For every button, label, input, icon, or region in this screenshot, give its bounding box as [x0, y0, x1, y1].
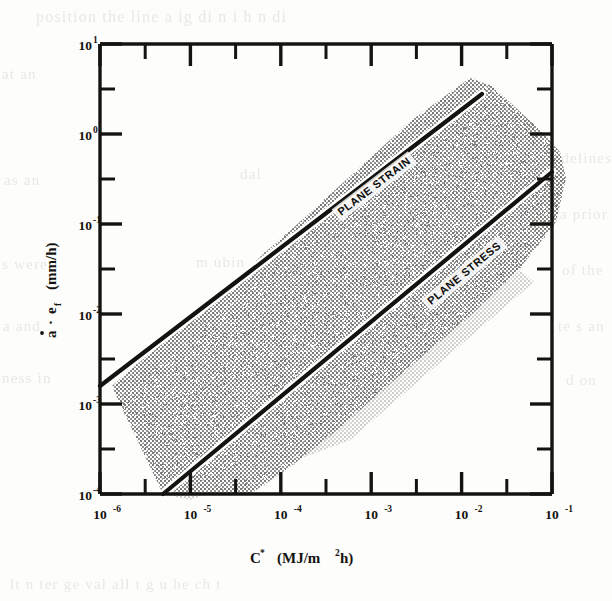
x-tick-label: 10 -3 [364, 504, 392, 522]
svg-text:10: 10 [79, 128, 93, 143]
svg-text:-2: -2 [93, 305, 101, 315]
svg-text:·: · [43, 320, 59, 325]
y-axis-title: a · e f (mm/h) [40, 243, 63, 339]
svg-text:e: e [43, 307, 59, 314]
svg-text:10: 10 [364, 507, 378, 522]
figure-page: position the line a ig di n i h n di at … [0, 0, 612, 601]
chart-svg: PLANE STRAIN PLANE STRESS [0, 0, 612, 601]
svg-text:10: 10 [93, 507, 107, 522]
y-tick-label: 10 0 [79, 125, 99, 143]
svg-text:10: 10 [79, 398, 93, 413]
svg-text:10: 10 [545, 507, 559, 522]
x-axis-title: C * (MJ/m 2 h) [250, 548, 353, 567]
svg-text:10: 10 [79, 218, 93, 233]
creep-crack-growth-chart: PLANE STRAIN PLANE STRESS [0, 0, 612, 601]
svg-text:-3: -3 [93, 395, 101, 405]
scatter-band-group [112, 78, 566, 500]
svg-text:1: 1 [93, 35, 98, 45]
svg-text:*: * [260, 548, 265, 558]
svg-text:-5: -5 [203, 504, 211, 514]
y-tick-label: 10 -1 [79, 215, 102, 233]
svg-text:10: 10 [79, 488, 93, 503]
svg-text:-1: -1 [565, 504, 573, 514]
svg-text:-1: -1 [93, 215, 101, 225]
svg-text:h): h) [340, 550, 353, 567]
svg-text:(mm/h): (mm/h) [43, 243, 60, 291]
svg-text:(MJ/m: (MJ/m [277, 550, 321, 567]
x-tick-labels: 10 -6 10 -5 10 -4 10 -3 10 -2 10 -1 [93, 504, 573, 522]
svg-text:10: 10 [184, 507, 198, 522]
svg-text:10: 10 [79, 308, 93, 323]
svg-text:a: a [43, 330, 59, 338]
y-tick-label: 10 -4 [79, 485, 102, 503]
svg-text:-6: -6 [113, 504, 121, 514]
x-tick-label: 10 -2 [455, 504, 483, 522]
svg-text:-4: -4 [294, 504, 302, 514]
x-tick-label: 10 -4 [274, 504, 302, 522]
svg-text:-2: -2 [475, 504, 483, 514]
svg-text:10: 10 [455, 507, 469, 522]
y-tick-label: 10 -2 [79, 305, 102, 323]
y-tick-label: 10 -3 [79, 395, 102, 413]
x-tick-label: 10 -1 [545, 504, 573, 522]
svg-text:f: f [53, 302, 63, 306]
y-tick-label: 10 1 [79, 35, 99, 53]
svg-text:10: 10 [274, 507, 288, 522]
svg-text:-3: -3 [384, 504, 392, 514]
svg-text:-4: -4 [93, 485, 101, 495]
x-tick-label: 10 -5 [184, 504, 212, 522]
svg-text:0: 0 [93, 125, 98, 135]
svg-text:10: 10 [79, 38, 93, 53]
a-dot-accent [40, 331, 44, 335]
y-tick-labels: 10 1 10 0 10 -1 10 -2 10 -3 10 -4 [79, 35, 102, 503]
x-tick-label: 10 -6 [93, 504, 121, 522]
